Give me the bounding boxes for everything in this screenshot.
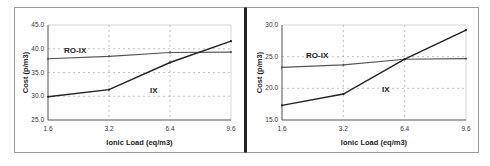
x-axis-title: Ionic Load (eq/m3) [341,138,408,147]
data-point [404,58,406,60]
y-tick-label: 30.0 [31,92,44,99]
data-point [465,57,467,59]
y-tick-label: 25.0 [31,116,44,123]
data-point [281,104,283,106]
y-tick-label: 20.0 [265,84,278,91]
y-tick-label: 15.0 [265,116,278,123]
x-tick-label: 6.4 [165,125,174,132]
data-point [342,64,344,66]
x-tick-label: 3.2 [104,125,113,132]
data-point [230,40,232,42]
x-tick-label: 1.6 [277,125,286,132]
data-point [169,51,171,53]
data-point [465,29,467,31]
x-tick-label: 9.6 [461,125,470,132]
y-tick-label: 40.0 [31,45,44,52]
y-tick-label: 35.0 [31,69,44,76]
series-label-ix: IX [382,85,390,94]
line-chart-right: 15.020.025.030.01.63.26.49.6RO-IXIXIonic… [247,8,481,154]
x-axis-title: Ionic Load (eq/m3) [106,138,173,147]
data-point [47,96,49,98]
y-tick-label: 25.0 [265,53,278,60]
x-tick-label: 9.6 [226,125,235,132]
data-point [108,89,110,91]
y-axis-title: Cost (p/m3) [21,51,30,93]
y-tick-label: 45.0 [31,21,44,28]
plot-area [282,25,466,120]
chart-panel-right: 15.020.025.030.01.63.26.49.6RO-IXIXIonic… [245,7,479,153]
x-tick-label: 1.6 [43,125,52,132]
y-tick-label: 30.0 [265,21,278,28]
data-point [281,66,283,68]
data-point [230,51,232,53]
y-axis-title: Cost (p/m3) [255,51,264,93]
line-chart-left: 25.030.035.040.045.01.63.26.49.6RO-IXIXI… [15,8,247,154]
series-label-roix: RO-IX [306,51,329,60]
data-point [108,55,110,57]
x-tick-label: 6.4 [400,125,409,132]
x-tick-label: 3.2 [339,125,348,132]
data-point [342,93,344,95]
series-label-roix: RO-IX [64,46,87,55]
data-point [169,61,171,63]
series-label-ix: IX [150,86,158,95]
data-point [47,58,49,60]
chart-panel-left: 25.030.035.040.045.01.63.26.49.6RO-IXIXI… [14,7,246,153]
